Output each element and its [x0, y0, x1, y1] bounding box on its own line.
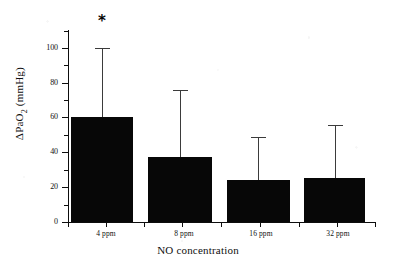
x-tick-label-16-ppm: 16 ppm [226, 229, 296, 238]
y-axis-title: ΔPaO2 (mmHg) [13, 19, 28, 189]
y-tick-label-100: 100 [32, 44, 58, 52]
x-tick-cat-2 [182, 222, 183, 227]
y-minor-tick-90 [64, 65, 68, 66]
y-tick-60 [62, 117, 68, 118]
y-minor-tick-50 [64, 135, 68, 136]
y-axis-title-subscript: 2 [20, 109, 29, 113]
x-tick-cat-3 [260, 222, 261, 227]
y-tick-100 [62, 48, 68, 49]
x-tick-cat-1 [106, 222, 107, 227]
x-tick-sep-3 [299, 222, 300, 227]
y-tick-label-60: 60 [32, 113, 58, 121]
x-tick-left-edge [68, 222, 69, 227]
y-tick-label-80: 80 [32, 79, 58, 87]
bar-8-ppm[interactable] [148, 157, 212, 222]
x-tick-label-32-ppm: 32 ppm [303, 229, 373, 238]
y-minor-tick-70 [64, 100, 68, 101]
y-minor-tick-110 [64, 31, 68, 32]
y-tick-40 [62, 152, 68, 153]
y-tick-label-40: 40 [32, 148, 58, 156]
y-axis-title-suffix: (mmHg) [13, 67, 25, 109]
error-bar-line-8-ppm [180, 90, 181, 157]
y-tick-label-20: 20 [32, 183, 58, 191]
y-tick-label-0: 0 [32, 218, 58, 226]
figure-canvas: 0 20 40 60 80 100 * [0, 0, 396, 268]
bar-16-ppm[interactable] [227, 180, 290, 222]
error-bar-cap-16-ppm [251, 137, 266, 138]
significance-asterisk-4-ppm: * [98, 14, 106, 29]
error-bar-line-4-ppm [102, 48, 103, 117]
x-tick-cat-4 [337, 222, 338, 227]
error-bar-line-32-ppm [335, 125, 336, 178]
bar-4-ppm[interactable] [71, 117, 133, 222]
error-bar-cap-4-ppm [95, 48, 110, 49]
x-axis-title: NO concentration [0, 244, 396, 256]
x-tick-right-edge [375, 222, 376, 227]
y-minor-tick-10 [64, 205, 68, 206]
y-tick-20 [62, 187, 68, 188]
error-bar-cap-32-ppm [328, 125, 343, 126]
error-bar-cap-8-ppm [173, 90, 188, 91]
x-tick-label-8-ppm: 8 ppm [149, 229, 219, 238]
plot-area: 0 20 40 60 80 100 * [0, 0, 396, 268]
y-minor-tick-30 [64, 170, 68, 171]
x-tick-sep-1 [144, 222, 145, 227]
error-bar-line-16-ppm [258, 137, 259, 180]
x-axis-line [68, 222, 376, 223]
y-axis-title-prefix: ΔPaO [13, 113, 25, 140]
x-tick-label-4-ppm: 4 ppm [71, 229, 141, 238]
y-tick-80 [62, 83, 68, 84]
y-axis-line [68, 30, 69, 222]
bar-32-ppm[interactable] [304, 178, 365, 222]
x-tick-sep-2 [221, 222, 222, 227]
